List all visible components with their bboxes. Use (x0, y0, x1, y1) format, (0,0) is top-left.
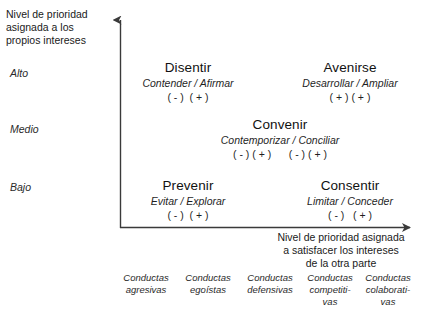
y-tick-label-bajo: Bajo (10, 181, 80, 193)
cell-consentir-signs: ( - ) ( + ) (286, 208, 414, 222)
cell-consentir-name: Consentir (286, 178, 414, 194)
cell-avenirse-signs: ( + ) ( + ) (286, 90, 414, 104)
y-tick-label-alto: Alto (10, 67, 80, 79)
column-label-defensivas: Conductas defensivas (236, 272, 304, 296)
cell-disentir: Disentir Contender / Afirmar ( - ) ( + ) (124, 60, 252, 104)
x-axis-title: Nivel de prioridad asignada a satisfacer… (262, 231, 420, 270)
cell-avenirse-subtitle: Desarrollar / Ampliar (286, 76, 414, 90)
cell-prevenir-subtitle: Evitar / Explorar (124, 194, 252, 208)
cell-convenir-subtitle: Contemporizar / Conciliar (196, 133, 364, 147)
cell-prevenir-name: Prevenir (124, 178, 252, 194)
cell-prevenir: Prevenir Evitar / Explorar ( - ) ( + ) (124, 178, 252, 222)
cell-convenir-name: Convenir (196, 117, 364, 133)
y-tick-label-medio: Medio (10, 123, 80, 135)
y-axis-title: Nivel de prioridad asignada a los propio… (6, 8, 114, 47)
column-label-agresivas: Conductas agresivas (112, 272, 180, 296)
cell-prevenir-signs: ( - ) ( + ) (124, 208, 252, 222)
cell-consentir: Consentir Limitar / Conceder ( - ) ( + ) (286, 178, 414, 222)
column-label-egoistas: Conductas egoístas (174, 272, 242, 296)
cell-convenir: Convenir Contemporizar / Conciliar ( - )… (196, 117, 364, 161)
cell-consentir-subtitle: Limitar / Conceder (286, 194, 414, 208)
cell-disentir-name: Disentir (124, 60, 252, 76)
column-label-colaborativas: Conductas colaborati- vas (354, 272, 422, 308)
conflict-styles-diagram: Nivel de prioridad asignada a los propio… (0, 0, 422, 329)
cell-avenirse-name: Avenirse (286, 60, 414, 76)
cell-disentir-signs: ( - ) ( + ) (124, 90, 252, 104)
cell-disentir-subtitle: Contender / Afirmar (124, 76, 252, 90)
cell-convenir-signs: ( - ) ( + ) ( - ) ( + ) (196, 147, 364, 161)
cell-avenirse: Avenirse Desarrollar / Ampliar ( + ) ( +… (286, 60, 414, 104)
